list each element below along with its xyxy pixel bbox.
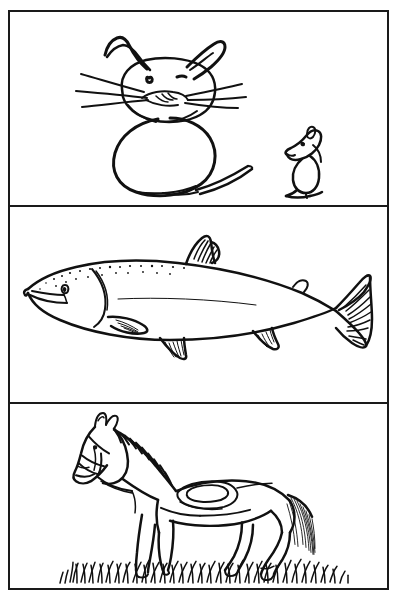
horse-tail-hair [287, 498, 315, 554]
salmon-drawing [24, 236, 372, 359]
rabbit-drawing [76, 37, 252, 195]
sheet-border: Cartoon rabbit with long ears and whiske… [8, 10, 389, 590]
horse-panel: Side view line drawing of a saddled hors… [10, 402, 387, 588]
rabbit-and-mouse-panel: Cartoon rabbit with long ears and whiske… [10, 12, 387, 205]
horse-drawing [74, 413, 315, 580]
worksheet-page: Animal Line Drawings Worksheet Cartoon r… [0, 0, 397, 608]
back-speckles [39, 265, 185, 290]
grass-drawing [60, 559, 348, 583]
mouse-drawing [286, 127, 322, 198]
fish-panel: Side view line drawing of a salmon or tr… [10, 205, 387, 402]
